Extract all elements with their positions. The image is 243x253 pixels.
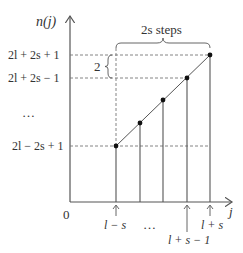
y-tick-label: 2l + 2s + 1 <box>8 48 60 62</box>
x-axis-label: j <box>227 204 233 219</box>
x-tick-ellipsis: … <box>143 217 156 232</box>
y-tick-ellipsis: … <box>22 105 35 120</box>
data-point <box>114 144 119 149</box>
data-point <box>138 121 143 126</box>
origin-label: 0 <box>63 207 70 222</box>
y-axis-label: n(j) <box>36 14 57 30</box>
data-point <box>185 76 190 81</box>
x-tick-arrow-icon <box>184 205 190 232</box>
y-tick-label: 2l + 2s − 1 <box>8 71 60 85</box>
y-tick-label: 2l − 2s + 1 <box>12 139 64 153</box>
gap-label: 2 <box>94 59 101 74</box>
step-diagram: n(j) j 0 2l + 2s + 1 2l + 2s − 1 … 2l − … <box>0 0 243 253</box>
gap-brace-icon <box>105 55 112 78</box>
x-tick-label: l + s − 1 <box>168 233 210 247</box>
data-point <box>208 53 213 58</box>
data-point <box>161 98 166 103</box>
x-tick-arrow-icon <box>113 205 119 216</box>
steps-brace-label: 2s steps <box>141 22 182 37</box>
x-tick-label: l + s <box>201 218 223 232</box>
steps-brace-icon <box>116 38 210 48</box>
x-tick-arrow-icon <box>207 205 213 216</box>
x-tick-label: l − s <box>104 218 126 232</box>
